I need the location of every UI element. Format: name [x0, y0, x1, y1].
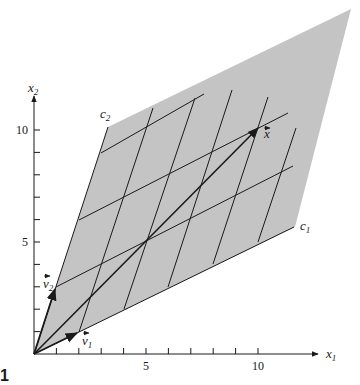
svg-text:v1: v1	[82, 333, 92, 350]
svg-text:v2: v2	[43, 276, 54, 293]
x-vector-label: x	[263, 126, 270, 141]
figure-marker: 1	[0, 367, 9, 384]
shaded-region	[34, 9, 351, 354]
x2-axis-label: x2	[27, 80, 39, 97]
x2-tick-label-5: 5	[22, 235, 28, 249]
x1-tick-label-10: 10	[252, 359, 264, 373]
x1-tick-label-5: 5	[143, 359, 149, 373]
c2-label: c2	[100, 106, 111, 123]
c1-label: c1	[300, 218, 310, 235]
x1-axis-label: x1	[325, 346, 336, 363]
v1-label: v1	[82, 333, 92, 350]
x2-tick-label-10: 10	[16, 123, 28, 137]
x2-axis-ticks	[34, 130, 40, 332]
x1-axis-ticks	[56, 348, 258, 354]
v2-label: v2	[43, 276, 54, 293]
diagram-canvas: 5 10 5 10 x1 x2 c2 c1 v1 v2 x 1	[0, 0, 360, 385]
